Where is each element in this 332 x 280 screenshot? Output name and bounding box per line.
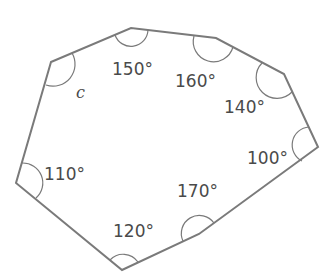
angle-label-120: 120° bbox=[113, 221, 154, 241]
octagon-diagram: c 150° 160° 140° 100° 170° 120° 110° bbox=[0, 0, 332, 280]
angle-arc-120 bbox=[110, 254, 138, 262]
angle-arc-110 bbox=[22, 163, 43, 198]
angle-label-c: c bbox=[76, 83, 85, 102]
angle-arc-160 bbox=[193, 36, 233, 62]
angle-label-110: 110° bbox=[44, 164, 85, 184]
angle-label-100: 100° bbox=[247, 148, 288, 168]
angle-label-150: 150° bbox=[112, 59, 153, 79]
angle-label-170: 170° bbox=[177, 181, 218, 201]
angle-label-140: 140° bbox=[224, 97, 265, 117]
angle-arc-170 bbox=[181, 215, 214, 241]
angle-label-160: 160° bbox=[175, 71, 216, 91]
